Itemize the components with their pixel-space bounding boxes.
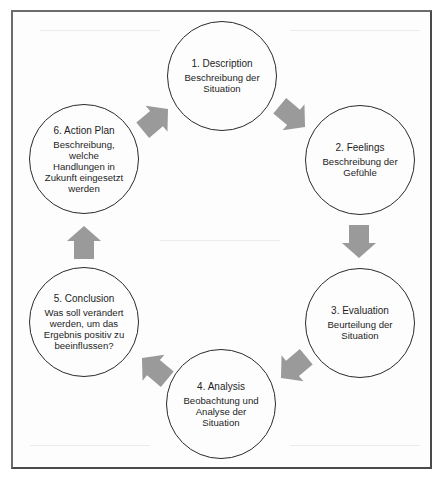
cycle-node-action-plan: 6. Action Plan Beschreibung, welche Hand… — [29, 104, 139, 214]
node-title: 2. Feelings — [336, 142, 385, 153]
arrow-6-to-1 — [132, 96, 179, 143]
arrow-5-to-6 — [67, 226, 101, 259]
node-title: 5. Conclusion — [54, 293, 115, 304]
cycle-node-evaluation: 3. Evaluation Beurteilung der Situation — [305, 268, 415, 378]
cycle-node-analysis: 4. Analysis Beobachtung und Analyse der … — [166, 349, 276, 459]
cycle-node-feelings: 2. Feelings Beschreibung der Gefühle — [305, 105, 415, 215]
node-description: Was soll verändert werden, um das Ergebn… — [30, 307, 138, 351]
node-description: Beschreibung der Gefühle — [306, 156, 414, 178]
node-description: Beurteilung der Situation — [306, 319, 414, 341]
cycle-node-description: 1. Description Beschreibung der Situatio… — [167, 21, 277, 131]
node-description: Beschreibung der Situation — [168, 72, 276, 94]
node-title: 3. Evaluation — [331, 305, 389, 316]
arrow-3-to-4 — [270, 344, 317, 391]
arrow-1-to-2 — [269, 93, 316, 140]
node-title: 1. Description — [191, 58, 252, 69]
node-description: Beschreibung, welche Handlungen in Zukun… — [30, 139, 138, 194]
arrow-2-to-3 — [342, 225, 376, 258]
node-description: Beobachtung und Analyse der Situation — [167, 395, 275, 428]
node-title: 6. Action Plan — [53, 125, 114, 136]
node-title: 4. Analysis — [197, 381, 245, 392]
cycle-node-conclusion: 5. Conclusion Was soll verändert werden,… — [29, 267, 139, 377]
